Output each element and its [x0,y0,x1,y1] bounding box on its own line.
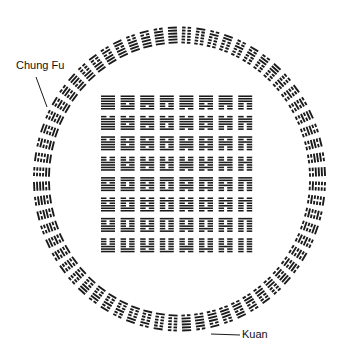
hexagram [199,116,213,130]
hexagram [36,138,55,151]
hexagram [300,220,319,234]
hexagram [126,34,140,53]
hexagram [121,136,135,150]
hexagram [160,238,174,252]
hexagram [231,300,246,319]
hexagram [300,123,319,137]
hexagram [168,314,178,331]
chung-fu-pointer [36,77,47,107]
hexagram [219,305,233,324]
hexagram [140,95,154,109]
hexagram [52,97,71,113]
hexagram [101,157,115,171]
hexagram [219,157,233,171]
hexagram [140,309,153,328]
hexagram [288,97,307,113]
hexagram [160,197,174,211]
hexagram [160,218,174,232]
hexagram [52,245,71,261]
chung-fu-label: Chung Fu [16,59,64,71]
hexagram [263,63,281,82]
hexagram [168,27,178,44]
hexagram [45,233,64,248]
kuan-pointer [211,334,240,335]
hexagram [121,218,135,232]
hexagram [194,312,205,330]
hexagram [179,218,193,232]
hexagram [238,197,252,211]
hexagram [199,238,213,252]
hexagram [100,293,116,312]
hexagram [253,285,270,304]
hexagram [179,95,193,109]
hexagram [199,218,213,232]
hexagram [33,181,50,191]
hexagram [219,136,233,150]
hexagram [140,177,154,191]
hexagram [89,54,106,73]
hexagram [219,177,233,191]
hexagram [263,276,281,295]
hexagram [140,30,153,49]
hexagram [219,197,233,211]
hexagram [126,305,140,324]
hexagram [121,238,135,252]
hexagram [34,194,52,205]
hexagram [309,167,326,177]
hexagram [281,256,300,273]
hexagram [101,95,115,109]
hexagram [219,34,233,53]
hexagram-circle [33,27,326,332]
hexagram [219,95,233,109]
hexagram [113,39,128,58]
hexagram [179,157,193,171]
hexagram [199,177,213,191]
hexagram [160,95,174,109]
hexagram [101,177,115,191]
hexagram [179,197,193,211]
hexagram [101,116,115,130]
hexagram [199,157,213,171]
hexagram [140,238,154,252]
hexagram [238,238,252,252]
hexagram [199,95,213,109]
hexagram [101,197,115,211]
hexagram [160,157,174,171]
hexagram [59,256,78,273]
hexagram [207,30,220,49]
hexagram [101,136,115,150]
hexagram [121,95,135,109]
hexagram [121,197,135,211]
hexagram [34,152,52,163]
hexagram [307,194,325,205]
hexagram [207,309,220,328]
hexagram [68,267,87,285]
hexagram [272,267,291,285]
hexagram [121,116,135,130]
hexagram [307,152,325,163]
hexagram [309,181,326,191]
hexagram [181,314,191,331]
hexagram [304,208,323,221]
hexagram [101,218,115,232]
kuan-label: Kuan [242,328,268,340]
hexagram [295,233,314,248]
hexagram [272,73,291,91]
hexagram [101,238,115,252]
hexagram [219,218,233,232]
hexagram [238,136,252,150]
hexagram [238,116,252,130]
hexagram [219,238,233,252]
hexagram [89,285,106,304]
hexagram [181,27,191,44]
hexagram [100,46,116,65]
hexagram [194,28,205,46]
hexagram [238,157,252,171]
hexagram [179,116,193,130]
hexagram [288,245,307,261]
hexagram [179,238,193,252]
hexagram-diagram [0,0,346,358]
hexagram [140,157,154,171]
hexagram [179,177,193,191]
hexagram [238,95,252,109]
